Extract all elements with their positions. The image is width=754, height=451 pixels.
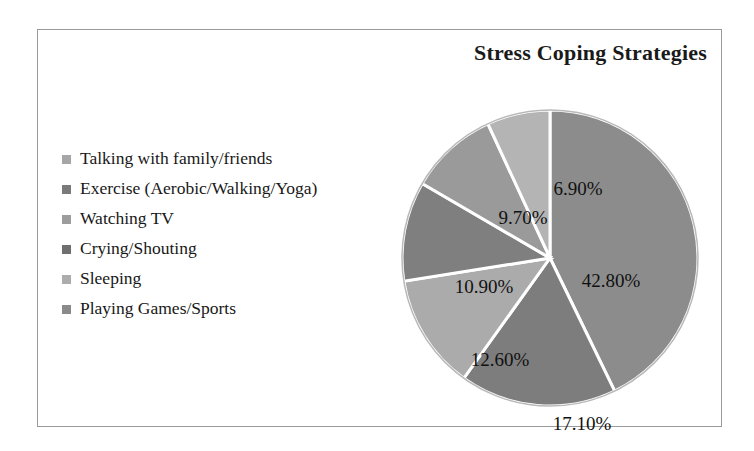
legend-label-talking: Talking with family/friends <box>80 150 272 168</box>
legend-swatch-talking <box>62 155 71 164</box>
chart-title: Stress Coping Strategies <box>474 40 707 66</box>
legend-item-exercise[interactable]: Exercise (Aerobic/Walking/Yoga) <box>62 174 342 204</box>
legend-swatch-tv <box>62 215 71 224</box>
legend-swatch-exercise <box>62 185 71 194</box>
legend-label-games: Playing Games/Sports <box>80 300 236 318</box>
legend-item-crying[interactable]: Crying/Shouting <box>62 234 342 264</box>
chart-frame: Stress Coping Strategies Talking with fa… <box>37 29 722 427</box>
chart-legend: Talking with family/friends Exercise (Ae… <box>62 144 342 324</box>
legend-label-watching-tv: Watching TV <box>80 210 174 228</box>
pie-chart: 42.80%17.10%12.60%10.90%9.70%6.90% <box>400 108 700 408</box>
slice-label-exercise: 17.10% <box>553 413 612 435</box>
legend-label-sleeping: Sleeping <box>80 270 141 288</box>
legend-swatch-crying <box>62 245 71 254</box>
legend-label-crying: Crying/Shouting <box>80 240 197 258</box>
legend-item-talking[interactable]: Talking with family/friends <box>62 144 342 174</box>
legend-swatch-games <box>62 305 71 314</box>
legend-item-games[interactable]: Playing Games/Sports <box>62 294 342 324</box>
legend-label-exercise: Exercise (Aerobic/Walking/Yoga) <box>80 180 317 198</box>
legend-swatch-sleeping <box>62 275 71 284</box>
pie-chart-svg <box>400 108 700 408</box>
pie-slices <box>402 110 698 406</box>
legend-item-sleeping[interactable]: Sleeping <box>62 264 342 294</box>
legend-item-watching-tv[interactable]: Watching TV <box>62 204 342 234</box>
